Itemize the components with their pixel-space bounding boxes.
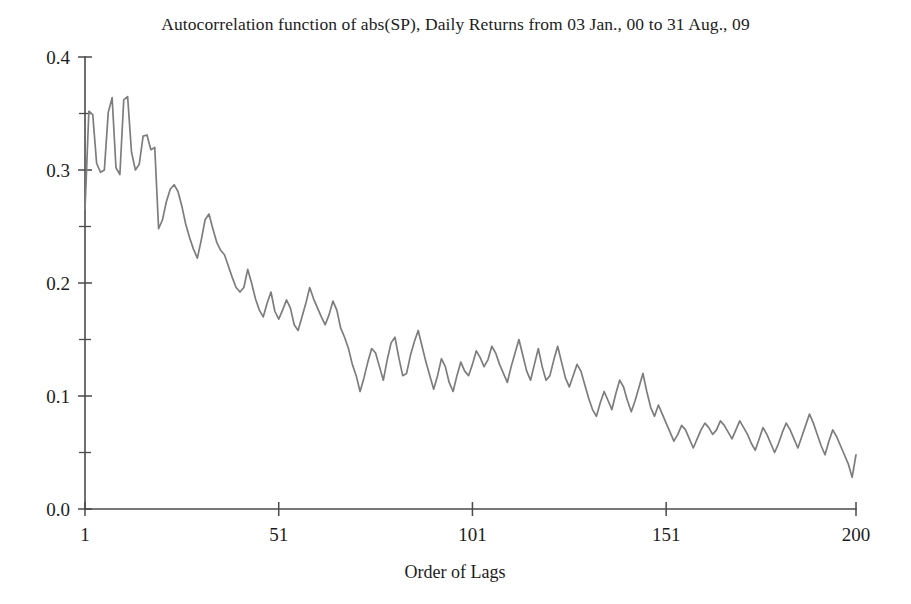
x-tick-label: 151 (652, 524, 681, 545)
x-tick-label: 1 (80, 524, 90, 545)
x-tick-label: 200 (842, 524, 871, 545)
acf-chart-figure: Autocorrelation function of abs(SP), Dai… (0, 0, 911, 604)
x-axis-tick-labels: 151101151200 (80, 524, 870, 545)
y-tick-label: 0.3 (46, 160, 70, 181)
y-tick-label: 0.1 (46, 386, 70, 407)
x-axis-title: Order of Lags (405, 562, 506, 582)
y-axis-tick-labels: 0.00.10.20.30.4 (46, 47, 70, 520)
y-tick-label: 0.2 (46, 273, 70, 294)
x-tick-label: 51 (269, 524, 288, 545)
y-tick-label: 0.4 (46, 47, 70, 68)
y-tick-label: 0.0 (46, 499, 70, 520)
x-tick-label: 101 (458, 524, 487, 545)
acf-series-line (85, 97, 856, 478)
plot-area: 0.00.10.20.30.4 151101151200 Order of La… (0, 0, 911, 604)
